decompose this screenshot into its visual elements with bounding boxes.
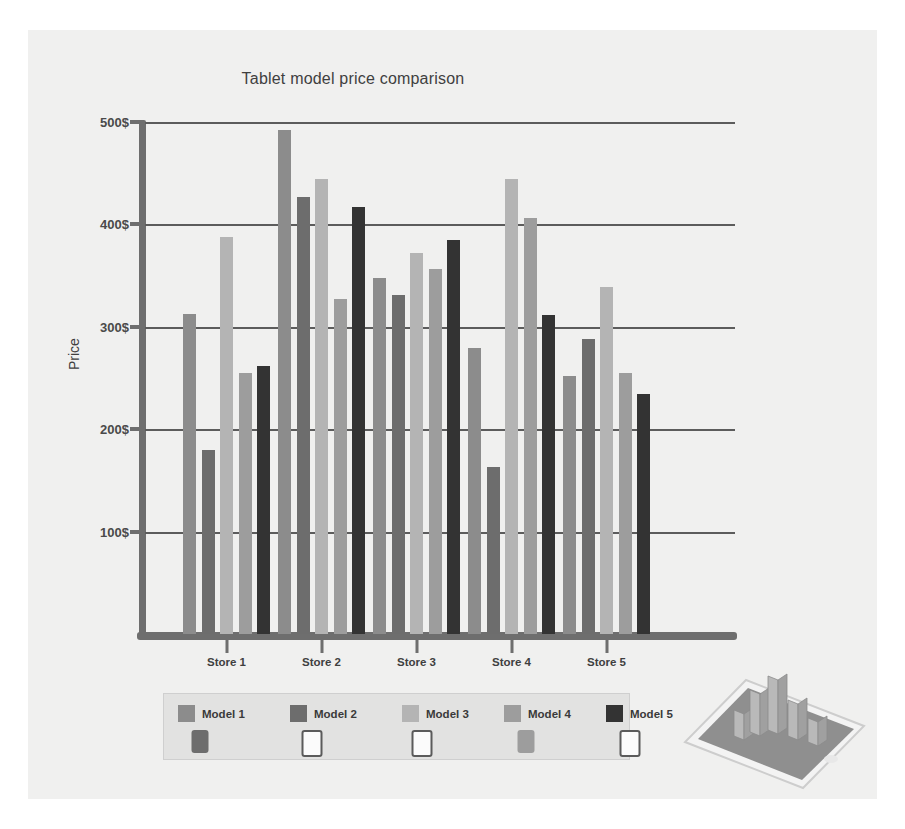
y-tick-mark	[130, 120, 143, 124]
legend-swatch	[504, 705, 521, 722]
chart-legend: Model 1Model 2Model 3Model 4Model 5	[163, 693, 630, 760]
chart-title: Tablet model price comparison	[28, 70, 678, 88]
legend-label: Model 5	[630, 708, 673, 720]
bar	[600, 287, 613, 634]
x-tick-mark	[225, 640, 228, 653]
bar	[505, 179, 518, 634]
bar	[183, 314, 196, 635]
legend-item-model-1[interactable]: Model 1	[178, 705, 245, 722]
bar	[410, 253, 423, 634]
legend-label: Model 2	[314, 708, 357, 720]
tablet-icon	[518, 730, 535, 753]
legend-swatch	[606, 705, 623, 722]
bar	[202, 450, 215, 634]
bar	[524, 218, 537, 634]
bar	[257, 366, 270, 634]
bar	[619, 373, 632, 634]
bar	[297, 197, 310, 634]
legend-item-model-5[interactable]: Model 5	[606, 705, 673, 722]
bar	[429, 269, 442, 634]
legend-item-model-4[interactable]: Model 4	[504, 705, 571, 722]
bar	[637, 394, 650, 634]
legend-swatch	[402, 705, 419, 722]
x-tick-mark	[510, 640, 513, 653]
y-tick-label: 400$	[100, 217, 129, 232]
x-tick-label: Store 1	[207, 656, 246, 668]
bar	[582, 339, 595, 634]
legend-swatch	[290, 705, 307, 722]
tablet-outline-icon	[302, 730, 323, 757]
x-tick-mark	[605, 640, 608, 653]
y-tick-label: 300$	[100, 319, 129, 334]
legend-label: Model 3	[426, 708, 469, 720]
bar	[239, 373, 252, 634]
y-axis-title: Price	[66, 338, 82, 370]
legend-item-model-3[interactable]: Model 3	[402, 705, 469, 722]
plot-area: 100$200$300$400$500$ Store 1Store 2Store…	[145, 122, 735, 634]
bar	[334, 299, 347, 634]
gridline	[145, 122, 735, 124]
bar	[373, 278, 386, 634]
tablet-illustration-icon	[668, 638, 877, 798]
tablet-outline-icon	[620, 730, 641, 757]
bar	[352, 207, 365, 634]
chart-figure: Tablet model price comparison Price 100$…	[28, 30, 877, 799]
gridline	[145, 224, 735, 226]
bar	[447, 240, 460, 634]
bar	[487, 467, 500, 634]
bar	[278, 130, 291, 634]
x-tick-label: Store 2	[302, 656, 341, 668]
bar	[468, 348, 481, 634]
y-tick-label: 200$	[100, 422, 129, 437]
legend-swatch	[178, 705, 195, 722]
bar	[392, 295, 405, 634]
legend-item-model-2[interactable]: Model 2	[290, 705, 357, 722]
legend-label: Model 1	[202, 708, 245, 720]
x-tick-mark	[320, 640, 323, 653]
bar	[542, 315, 555, 634]
bar	[220, 237, 233, 634]
x-tick-label: Store 3	[397, 656, 436, 668]
legend-label: Model 4	[528, 708, 571, 720]
x-tick-label: Store 4	[492, 656, 531, 668]
x-tick-label: Store 5	[587, 656, 626, 668]
bar	[315, 179, 328, 634]
y-tick-label: 500$	[100, 115, 129, 130]
tablet-icon	[192, 730, 209, 753]
y-tick-mark	[130, 222, 143, 226]
x-tick-mark	[415, 640, 418, 653]
y-tick-label: 100$	[100, 524, 129, 539]
tablet-outline-icon	[412, 730, 433, 757]
y-tick-mark	[130, 427, 143, 431]
y-tick-mark	[130, 530, 143, 534]
bar	[563, 376, 576, 634]
y-axis-line	[139, 120, 146, 636]
y-tick-mark	[130, 325, 143, 329]
